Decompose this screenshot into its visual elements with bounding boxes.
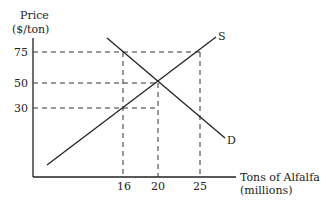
x-axis-title: Tons of Alfalfa bbox=[240, 171, 320, 184]
y-tick-75: 75 bbox=[14, 46, 28, 59]
y-tick-30: 30 bbox=[14, 102, 28, 115]
supply-label: S bbox=[218, 30, 226, 43]
x-tick-25: 25 bbox=[193, 180, 207, 193]
supply-curve bbox=[47, 37, 216, 165]
x-tick-20: 20 bbox=[151, 180, 165, 193]
reference-lines bbox=[33, 52, 200, 177]
x-axis-unit: (millions) bbox=[240, 184, 292, 197]
demand-label: D bbox=[227, 134, 236, 147]
y-axis-title: Price bbox=[20, 9, 49, 22]
supply-demand-chart: S D Price ($/ton) 75 50 30 16 20 25 Tons… bbox=[0, 0, 326, 208]
y-axis-unit: ($/ton) bbox=[12, 23, 49, 36]
demand-curve bbox=[107, 38, 225, 138]
y-tick-50: 50 bbox=[14, 77, 28, 90]
x-tick-16: 16 bbox=[117, 180, 131, 193]
